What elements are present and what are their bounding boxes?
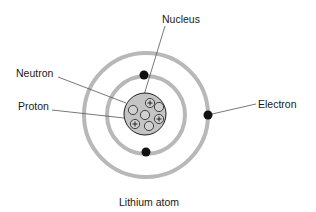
neutron-particle	[154, 102, 163, 111]
neutron-particle	[144, 121, 153, 130]
nucleus-leader-line	[144, 26, 165, 95]
electron-inner-top	[140, 71, 149, 80]
neutron-particle	[128, 105, 137, 114]
electron-outer-right	[204, 111, 213, 120]
diagram-title: Lithium atom	[119, 197, 179, 208]
electron-inner-bottom	[142, 148, 151, 157]
neutron-label: Neutron	[16, 68, 53, 79]
electron-leader-line	[212, 104, 256, 114]
electron-label: Electron	[258, 99, 297, 110]
proton-leader-line	[52, 110, 124, 118]
neutron-particle	[140, 110, 149, 119]
nucleus-label: Nucleus	[162, 14, 200, 25]
proton-label: Proton	[18, 101, 49, 112]
